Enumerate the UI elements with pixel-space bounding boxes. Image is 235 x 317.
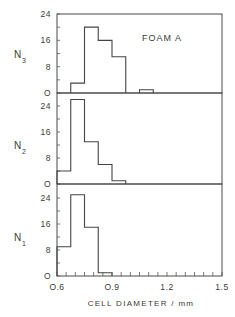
- y-tick-label: 16: [41, 219, 51, 229]
- histogram-bars-n2: [57, 100, 126, 185]
- histogram-bars-n3: [71, 27, 154, 93]
- y-tick-label: 24: [41, 101, 51, 111]
- histogram-figure: O81624N3O81624N2O81624N1 O.6O.91.21.5 FO…: [0, 0, 235, 317]
- panels: O81624N3O81624N2O81624N1: [14, 9, 222, 281]
- y-tick-label: 24: [41, 193, 51, 203]
- y-tick-label: O: [44, 271, 51, 281]
- panel-n2: O81624N2: [14, 93, 222, 189]
- panel-frame: [57, 14, 222, 93]
- y-tick-label: O: [44, 179, 51, 189]
- y-axis-label-subscript: 3: [22, 57, 26, 64]
- y-tick-label: 8: [46, 62, 51, 72]
- y-axis-label-n1: N: [14, 232, 21, 243]
- x-tick-label: 1.2: [160, 282, 173, 292]
- panel-n1: O81624N1: [14, 184, 222, 281]
- y-axis-label-n2: N: [14, 140, 21, 151]
- foam-label: FOAM A: [142, 33, 182, 43]
- y-tick-label: 24: [41, 9, 51, 19]
- panel-frame: [57, 93, 222, 184]
- y-axis-label-subscript: 2: [22, 148, 26, 155]
- x-tick-label: O.9: [104, 282, 119, 292]
- x-tick-label: O.6: [49, 282, 64, 292]
- y-tick-label: 16: [41, 127, 51, 137]
- panel-frame: [57, 184, 222, 276]
- y-axis-label-n3: N: [14, 49, 21, 60]
- y-axis-label-subscript: 1: [22, 240, 26, 247]
- y-tick-label: 8: [46, 245, 51, 255]
- y-tick-label: 8: [46, 153, 51, 163]
- panel-n3: O81624N3: [14, 9, 222, 98]
- y-tick-label: O: [44, 88, 51, 98]
- histogram-bars-n1: [57, 195, 112, 276]
- y-tick-label: 16: [41, 35, 51, 45]
- x-axis-title: CELL DIAMETER / mm: [88, 299, 195, 308]
- x-axis: O.6O.91.21.5: [49, 272, 228, 292]
- x-tick-label: 1.5: [215, 282, 228, 292]
